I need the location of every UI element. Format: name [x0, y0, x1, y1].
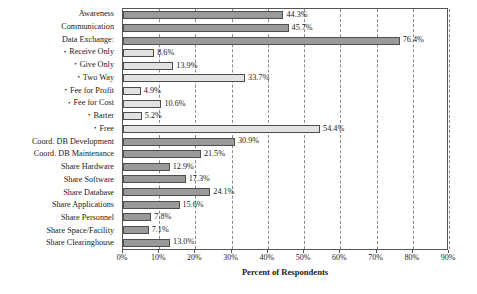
x-tick-label: 30%: [223, 254, 238, 262]
category-label: Share Clearinghouse: [0, 237, 118, 250]
bar-value-label: 45.7%: [292, 24, 313, 32]
bar-value-label: 21.5%: [204, 150, 225, 158]
bar-value-label: 7.8%: [154, 213, 171, 221]
bar-row: 13.9%: [123, 60, 447, 73]
bar: [123, 11, 283, 19]
bar: [123, 138, 235, 146]
bar-value-label: 13.9%: [176, 62, 197, 70]
category-label: Communication: [0, 21, 118, 34]
bar-value-label: 13.0%: [173, 238, 194, 246]
bar: [123, 188, 210, 196]
x-tick-label: 10%: [151, 254, 166, 262]
bar-row: 15.6%: [123, 198, 447, 211]
bar-value-label: 44.3%: [286, 11, 307, 19]
bar-row: 45.7%: [123, 22, 447, 35]
bar: [123, 74, 245, 82]
x-tick-label: 0%: [117, 254, 128, 262]
bar-row: 30.9%: [123, 135, 447, 148]
bar: [123, 163, 170, 171]
bar: [123, 100, 161, 108]
category-label: Awareness: [0, 8, 118, 21]
bar-row: 7.8%: [123, 211, 447, 224]
bar-row: 24.1%: [123, 186, 447, 199]
x-axis: 0%10%20%30%40%50%60%70%80%90%: [122, 250, 448, 266]
category-label: Give Only: [0, 59, 118, 72]
bar-row: 5.2%: [123, 110, 447, 123]
category-label: Share Space/Facility: [0, 224, 118, 237]
bar: [123, 62, 173, 70]
bar-value-label: 10.6%: [164, 100, 185, 108]
category-label: Share Database: [0, 186, 118, 199]
chart-page: AwarenessCommunicationData Exchange:Rece…: [0, 0, 477, 294]
bar-row: 10.6%: [123, 97, 447, 110]
bar-value-label: 17.3%: [189, 175, 210, 183]
plot-area: 44.3%45.7%76.4%8.6%13.9%33.7%4.9%10.6%5.…: [122, 8, 448, 250]
category-label: Receive Only: [0, 46, 118, 59]
bar-row: 8.6%: [123, 47, 447, 60]
bar-value-label: 30.9%: [238, 137, 259, 145]
category-label: Free: [0, 123, 118, 136]
x-tick-label: 80%: [404, 254, 419, 262]
bar: [123, 213, 151, 221]
x-tick-label: 90%: [441, 254, 456, 262]
bar-row: 4.9%: [123, 85, 447, 98]
x-axis-title: Percent of Respondents: [122, 268, 448, 277]
x-tick-label: 50%: [296, 254, 311, 262]
category-label: Coord. DB Development: [0, 135, 118, 148]
bar-row: 17.3%: [123, 173, 447, 186]
category-label: Two Way: [0, 72, 118, 85]
category-label: Share Applications: [0, 199, 118, 212]
bar-value-label: 24.1%: [213, 188, 234, 196]
bar-value-label: 4.9%: [144, 87, 161, 95]
category-label: Fee for Cost: [0, 97, 118, 110]
bar-row: 54.4%: [123, 123, 447, 136]
bar-value-label: 5.2%: [145, 112, 162, 120]
bar: [123, 37, 400, 45]
category-label: Data Exchange:: [0, 33, 118, 46]
x-tick-label: 40%: [260, 254, 275, 262]
bar: [123, 87, 141, 95]
bar-value-label: 8.6%: [157, 49, 174, 57]
bar: [123, 150, 201, 158]
bar: [123, 49, 154, 57]
category-label: Coord. DB Maintenance: [0, 148, 118, 161]
category-label: Share Hardware: [0, 161, 118, 174]
category-label: Share Personnel: [0, 212, 118, 225]
bar-row: 33.7%: [123, 72, 447, 85]
bar: [123, 125, 320, 133]
x-tick-label: 60%: [332, 254, 347, 262]
bar-row: 44.3%: [123, 9, 447, 22]
bar-value-label: 15.6%: [183, 201, 204, 209]
bar-row: 76.4%: [123, 34, 447, 47]
bar: [123, 201, 180, 209]
bar: [123, 239, 170, 247]
bar-row: 7.1%: [123, 224, 447, 237]
bar-row: 21.5%: [123, 148, 447, 161]
category-label: Barter: [0, 110, 118, 123]
bar-row: 13.0%: [123, 236, 447, 249]
x-tick-label: 70%: [368, 254, 383, 262]
bar: [123, 112, 142, 120]
category-label: Fee for Profit: [0, 84, 118, 97]
bar: [123, 175, 186, 183]
bar-row: 12.9%: [123, 161, 447, 174]
gridline: [449, 9, 450, 249]
bar-value-label: 33.7%: [248, 74, 269, 82]
bar-series: 44.3%45.7%76.4%8.6%13.9%33.7%4.9%10.6%5.…: [123, 9, 447, 249]
bar-value-label: 7.1%: [152, 226, 169, 234]
category-label: Share Software: [0, 174, 118, 187]
category-axis-labels: AwarenessCommunicationData Exchange:Rece…: [0, 8, 118, 250]
bar: [123, 226, 149, 234]
bar-value-label: 76.4%: [403, 36, 424, 44]
x-tick-label: 20%: [187, 254, 202, 262]
bar: [123, 24, 289, 32]
bar-value-label: 12.9%: [173, 163, 194, 171]
bar-value-label: 54.4%: [323, 125, 344, 133]
